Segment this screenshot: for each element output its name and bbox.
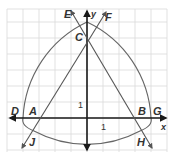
label-e: E	[64, 8, 72, 20]
reuleaux-triangle-diagram: E F C D A B G J H y x 1 1	[0, 0, 173, 157]
line-eh	[71, 11, 152, 148]
label-x-axis: x	[160, 122, 167, 132]
label-y-unit: 1	[78, 100, 83, 110]
label-a: A	[28, 105, 37, 117]
label-d: D	[11, 105, 19, 117]
line-jf	[22, 12, 106, 148]
label-b: B	[138, 105, 146, 117]
label-g: G	[153, 105, 162, 117]
label-f: F	[105, 11, 112, 23]
label-y-axis: y	[90, 9, 97, 19]
label-j: J	[29, 136, 36, 148]
label-h: H	[137, 136, 146, 148]
label-x-unit: 1	[101, 122, 106, 132]
label-c: C	[75, 31, 84, 43]
